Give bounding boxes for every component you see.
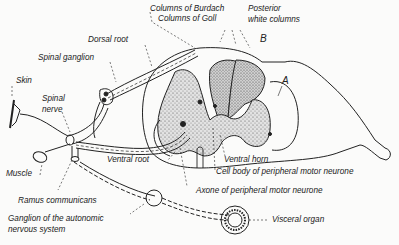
label-spinal-ganglion: Spinal ganglion <box>38 54 94 62</box>
label-columns-burdach: Columns of Burdach <box>150 5 224 13</box>
marker-b: B <box>260 34 267 44</box>
marker-a: A <box>282 76 289 86</box>
label-axone: Axone of peripheral motor neurone <box>196 187 323 195</box>
label-cell-body: Cell body of peripheral motor neurone <box>216 168 353 176</box>
diagram-artwork <box>0 0 399 245</box>
label-ramus-communicans: Ramus communicans <box>18 197 97 205</box>
label-muscle: Muscle <box>6 170 32 178</box>
label-skin: Skin <box>16 77 32 85</box>
label-columns-goll: Columns of Goll <box>158 15 216 23</box>
label-spinal-nerve-1: Spinal <box>42 95 65 103</box>
label-posterior-2: white columns <box>248 16 300 24</box>
label-dorsal-root: Dorsal root <box>88 36 128 44</box>
autonomic-ganglion-shape <box>146 190 162 206</box>
spinal-cord-diagram: Columns of Burdach Columns of Goll Poste… <box>0 0 399 245</box>
label-visceral-organ: Visceral organ <box>272 216 324 224</box>
label-spinal-nerve-2: nerve <box>42 106 62 114</box>
label-ventral-root: Ventral root <box>107 156 149 164</box>
label-ventral-horn: Ventral horn <box>224 156 268 164</box>
label-posterior-1: Posterior <box>248 5 281 13</box>
label-ganglion-autonomic-2: nervous system <box>8 226 65 234</box>
label-ganglion-autonomic-1: Ganglion of the autonomic <box>8 215 104 223</box>
